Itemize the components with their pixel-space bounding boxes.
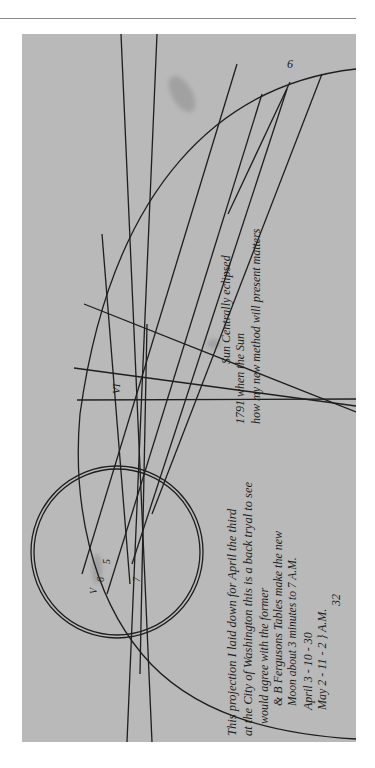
circle-label-v: V <box>88 586 99 594</box>
arc-number-6: 6 <box>287 57 293 71</box>
manuscript-page: 6 VI V 6 5 7 Sun Centrally eclipsed 1791… <box>22 34 356 742</box>
roman-hour-vi: VI <box>110 382 122 394</box>
circle-label-5: 5 <box>101 559 112 564</box>
top-divider-rule <box>0 18 356 19</box>
note-lower-line-1: This projection I laid down for April th… <box>225 508 239 736</box>
note-lower-line-5: Moon about 3 minutes to 7 A.M. <box>286 557 298 707</box>
note-upper-line-3: how my new method will present matters <box>249 228 263 424</box>
note-lower-line-3: would agree with the former <box>257 587 271 724</box>
note-upper-line-2: 1791 when the Sun <box>233 333 247 424</box>
circle-label-7: 7 <box>131 576 142 582</box>
small-circle-outer <box>31 466 203 638</box>
note-lower-line-7: May 2 - 11 - 2 } A.M. <box>315 609 329 711</box>
note-lower-line-4: & B Fergusons Tables make the new <box>271 531 285 706</box>
small-circle-inner <box>34 469 200 635</box>
note-upper-line-1: Sun Centrally eclipsed <box>219 254 233 364</box>
eclipse-projection-diagram: 6 VI V 6 5 7 Sun Centrally eclipsed 1791… <box>22 34 356 742</box>
note-lower-line-2: at the City of Washington this is a back… <box>241 482 255 736</box>
note-lower-line-6: April 3 - 10 - 30 <box>301 632 315 711</box>
note-lower-line-8: 32 <box>329 594 343 607</box>
circle-label-6: 6 <box>95 577 106 582</box>
